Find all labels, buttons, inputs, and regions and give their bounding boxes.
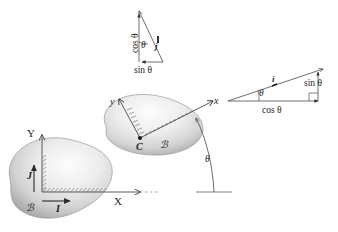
reference-axis-y-label: Y <box>27 128 35 139</box>
body-center-label: C <box>136 142 143 152</box>
triangle-i-angle-label: θ <box>259 89 264 99</box>
reference-body-label: ℬ <box>26 203 34 213</box>
rotation-angle-arc <box>196 118 232 192</box>
triangle-j <box>139 11 163 62</box>
body-axis-x-label: x <box>214 96 218 106</box>
triangle-j-vertical-label: cos θ <box>131 33 141 53</box>
rotated-body-blob <box>104 94 203 155</box>
reference-unit-vector-i-label: I <box>56 204 60 214</box>
triangle-i-hypotenuse-label: i <box>272 75 275 84</box>
triangle-i-horizontal-label: cos θ <box>262 106 282 116</box>
reference-body-blob <box>9 138 112 218</box>
triangle-j-horizontal-label: sin θ <box>134 66 152 76</box>
body-center-point <box>138 136 142 140</box>
reference-axis-x-label: X <box>114 196 122 207</box>
reference-unit-vector-j-label: J <box>27 171 32 181</box>
triangle-i-unit-vector-tick <box>272 84 277 86</box>
body-axis-y-label: y <box>110 97 114 107</box>
rotation-angle-label: θ <box>205 155 210 165</box>
triangle-j-hypotenuse-label: j <box>155 42 158 51</box>
triangle-i-vertical-label: sin θ <box>304 79 322 89</box>
rotated-body-label: ℬ <box>160 140 168 150</box>
triangle-j-angle-label: θ <box>141 41 146 51</box>
diagram-canvas <box>0 0 338 232</box>
rigid-body-rotation-diagram: X Y I J ℬ y x C ℬ θ i sin θ cos θ θ j co… <box>0 0 338 232</box>
